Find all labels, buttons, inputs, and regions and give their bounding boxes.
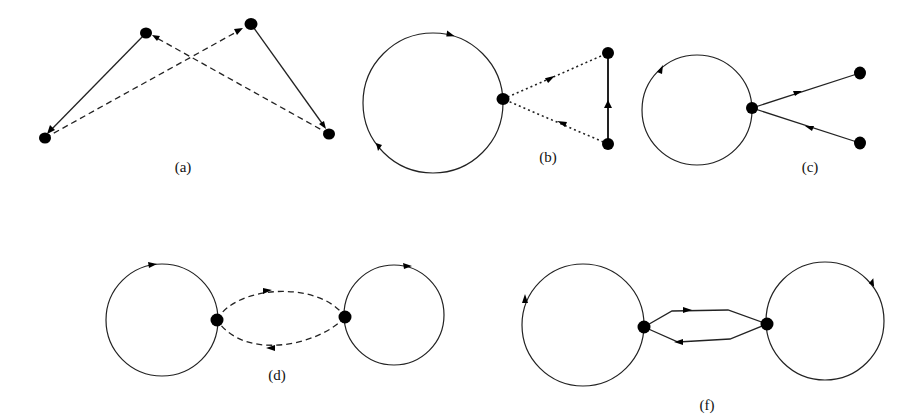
node-c2 <box>854 67 866 80</box>
panel-label-b: (b) <box>539 149 557 166</box>
self-loop-b <box>363 33 503 173</box>
panel-d: (d) <box>106 262 444 384</box>
edge-b3-b1 <box>503 99 608 144</box>
figure-canvas: (a) (b) (c) <box>0 0 920 420</box>
node-f1 <box>638 321 651 334</box>
node-a3 <box>39 133 51 144</box>
edge-a1-a3 <box>49 33 146 132</box>
node-a1 <box>140 28 152 39</box>
panel-c: (c) <box>642 55 866 176</box>
arrow-head-icon <box>152 35 160 41</box>
node-a2 <box>245 18 258 30</box>
panel-a: (a) <box>39 18 335 176</box>
node-f2 <box>761 318 774 331</box>
panel-label-f: (f) <box>700 397 715 414</box>
edge-f2-f1 <box>644 324 767 342</box>
arrow-head-icon <box>445 31 455 39</box>
arrow-head-icon <box>657 65 663 74</box>
panel-b: (b) <box>363 31 614 173</box>
edge-f1-f2 <box>644 310 767 327</box>
node-d2 <box>339 311 352 324</box>
self-loop-f-left <box>522 264 644 386</box>
arrow-head-icon <box>319 121 326 129</box>
arrow-head-icon <box>805 126 814 131</box>
node-c1 <box>746 102 758 114</box>
panel-f: (f) <box>522 262 884 414</box>
panel-label-d: (d) <box>268 367 286 384</box>
self-loop-f-right <box>766 262 884 380</box>
edge-d2-d1 <box>217 317 345 345</box>
arrow-head-icon <box>545 76 555 84</box>
edge-a3-a2 <box>45 30 240 138</box>
node-c3 <box>854 137 866 150</box>
node-b2 <box>602 47 614 59</box>
arrow-head-icon <box>683 307 692 313</box>
arrow-head-icon <box>263 288 272 294</box>
arrow-head-icon <box>793 91 802 96</box>
panel-label-a: (a) <box>175 159 192 176</box>
arrow-head-icon <box>604 100 612 108</box>
node-a4 <box>323 129 335 140</box>
edge-a2-a4 <box>251 24 324 126</box>
edge-c3-c1 <box>752 108 860 143</box>
arrow-head-icon <box>234 28 243 35</box>
node-b1 <box>497 93 510 105</box>
arrow-head-icon <box>148 262 157 268</box>
arrow-head-icon <box>674 339 683 345</box>
node-d1 <box>211 314 224 327</box>
node-b3 <box>602 138 614 150</box>
edge-c1-c2 <box>752 73 860 108</box>
edge-b1-b2 <box>503 53 608 99</box>
edge-a4-a1 <box>155 37 329 134</box>
arrow-head-icon <box>522 294 528 303</box>
self-loop-d-right <box>344 265 444 365</box>
self-loop-d-left <box>106 264 218 376</box>
edge-d1-d2 <box>217 291 345 320</box>
panel-label-c: (c) <box>802 159 819 176</box>
